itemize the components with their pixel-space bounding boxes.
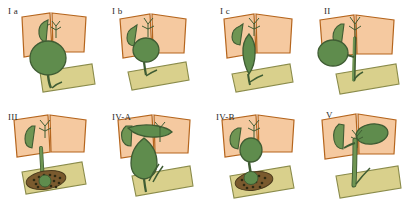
panel-label-1c: I c xyxy=(220,7,230,16)
panel-label-1a: I a xyxy=(8,7,18,16)
panel-label-1b: I b xyxy=(112,7,123,16)
panel-label-4b: IV-B xyxy=(216,113,235,122)
duodenum-band xyxy=(336,64,399,94)
choledochal-cyst xyxy=(30,41,66,75)
upper-cyst xyxy=(240,138,262,162)
lower-cyst xyxy=(244,172,258,185)
duodenum-band xyxy=(128,62,189,90)
panel-label-2: II xyxy=(324,7,331,16)
fusiform-cyst xyxy=(243,34,255,74)
duodenum-band xyxy=(336,166,401,198)
segmental-cyst xyxy=(133,38,159,62)
diverticulum-cyst xyxy=(318,40,348,66)
panel-type-5 xyxy=(306,106,408,212)
duodenum-band xyxy=(232,64,293,92)
panel-label-5: V xyxy=(326,111,333,120)
panel-type-2 xyxy=(306,0,408,106)
todani-classification-figure: I a I b xyxy=(0,0,408,213)
panel-label-3: III xyxy=(8,113,18,122)
panel-label-4a: IV-A xyxy=(112,113,131,122)
